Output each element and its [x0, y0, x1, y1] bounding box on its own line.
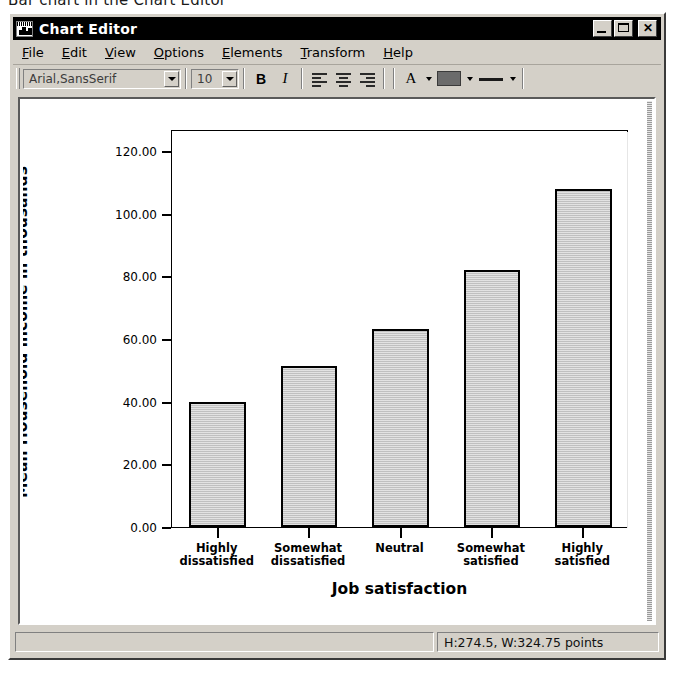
status-size-readout: H:274.5, W:324.75 points — [444, 635, 603, 650]
menu-item-options[interactable]: Options — [145, 43, 213, 62]
close-icon: ✕ — [639, 21, 656, 36]
y-axis-tick-mark — [162, 402, 171, 404]
align-right-icon — [360, 73, 375, 85]
line-style-button[interactable] — [475, 68, 507, 90]
close-button[interactable]: ✕ — [638, 20, 657, 37]
x-axis-tick-label: Somewhatsatisfied — [457, 542, 525, 568]
figure-caption: Bar chart in the Chart Editor — [8, 0, 226, 9]
minimize-icon — [597, 31, 606, 33]
menu-label-options: ptions — [164, 45, 204, 60]
status-size-pane: H:274.5, W:324.75 points — [437, 632, 659, 652]
menu-label-edit: dit — [70, 45, 87, 60]
menu-label-transform: ransform — [307, 45, 366, 60]
font-size-dropdown-arrow[interactable] — [222, 71, 237, 87]
chevron-down-icon — [168, 77, 176, 81]
canvas-right-gutter — [647, 101, 652, 621]
bar[interactable] — [372, 329, 429, 527]
x-axis-tick-label: Highlysatisfied — [555, 542, 610, 568]
align-left-icon — [312, 73, 327, 85]
chevron-down-icon — [226, 77, 234, 81]
menu-label-view: iew — [114, 45, 136, 60]
italic-button[interactable]: I — [273, 68, 297, 90]
chart-client-area[interactable]: Mean Household income in thousands 0.002… — [18, 97, 656, 625]
text-color-button[interactable]: A — [399, 68, 423, 90]
y-axis-tick-mark — [162, 527, 171, 529]
toolbar-separator — [393, 68, 395, 89]
text-color-icon: A — [406, 70, 417, 87]
toolbar-separator — [522, 68, 524, 89]
chevron-down-icon — [467, 77, 473, 81]
y-axis-tick-mark — [162, 276, 171, 278]
menu-item-view[interactable]: View — [96, 43, 145, 62]
bar[interactable] — [281, 366, 338, 527]
chevron-down-icon — [510, 77, 516, 81]
text-color-dropdown-arrow[interactable] — [423, 70, 434, 88]
font-size-combo[interactable]: 10 — [191, 69, 239, 89]
menu-item-transform[interactable]: Transform — [292, 43, 375, 62]
x-axis-label-line: satisfied — [457, 555, 525, 568]
font-size-value: 10 — [192, 72, 222, 86]
x-axis-tick-mark — [400, 528, 402, 538]
y-axis-tick: 20.00 — [23, 458, 171, 472]
menu-item-edit[interactable]: Edit — [53, 43, 96, 62]
minimize-button[interactable] — [593, 20, 612, 37]
maximize-button[interactable] — [614, 20, 633, 37]
x-axis-tick-mark — [308, 528, 310, 538]
menu-bar: File Edit View Options Elements Transfor… — [13, 41, 661, 65]
window-title: Chart Editor — [39, 21, 137, 37]
menu-item-help[interactable]: Help — [374, 43, 422, 62]
status-message-pane — [15, 632, 434, 652]
y-axis-tick: 120.00 — [23, 145, 171, 159]
title-bar: Chart Editor ✕ — [13, 17, 661, 40]
align-center-button[interactable] — [331, 68, 355, 90]
chart-canvas[interactable]: Mean Household income in thousands 0.002… — [23, 102, 649, 618]
menu-label-help: elp — [393, 45, 413, 60]
x-axis-tick-mark — [582, 528, 584, 538]
x-axis-label-line: Neutral — [375, 542, 423, 555]
x-axis-label-line: dissatisfied — [179, 555, 253, 568]
toolbar-separator — [185, 68, 187, 89]
bar[interactable] — [189, 402, 246, 527]
x-axis-label-line: dissatisfied — [271, 555, 345, 568]
fill-color-icon — [437, 71, 461, 86]
menu-item-file[interactable]: File — [13, 43, 53, 62]
fill-color-button[interactable] — [434, 68, 464, 90]
toolbar-grip[interactable] — [16, 68, 20, 89]
y-axis-tick: 100.00 — [23, 208, 171, 222]
bold-icon: B — [256, 71, 266, 87]
y-axis-tick: 0.00 — [23, 521, 171, 535]
align-center-icon — [336, 73, 351, 85]
x-axis-title: Job satisfaction — [171, 580, 628, 598]
line-style-icon — [478, 72, 504, 86]
toolbar-separator — [243, 68, 245, 89]
chevron-down-icon — [426, 77, 432, 81]
y-axis-tick-mark — [162, 339, 171, 341]
chart-window-icon — [16, 21, 33, 37]
menu-item-elements[interactable]: Elements — [213, 43, 292, 62]
toolbar-separator — [383, 68, 385, 89]
x-axis-tick-label: Neutral — [375, 542, 423, 555]
x-axis-tick-mark — [491, 528, 493, 538]
font-family-combo[interactable]: Arial,SansSerif — [23, 69, 181, 89]
y-axis-tick-mark — [162, 214, 171, 216]
x-axis-tick-mark — [217, 528, 219, 538]
formatting-toolbar: Arial,SansSerif 10 B I A — [13, 65, 661, 92]
fill-color-dropdown-arrow[interactable] — [464, 70, 475, 88]
x-axis-label-line: satisfied — [555, 555, 610, 568]
y-axis-tick: 40.00 — [23, 396, 171, 410]
status-bar: H:274.5, W:324.75 points — [15, 631, 659, 653]
italic-icon: I — [283, 70, 288, 87]
toolbar-separator — [301, 68, 303, 89]
align-left-button[interactable] — [307, 68, 331, 90]
bold-button[interactable]: B — [249, 68, 273, 90]
align-right-button[interactable] — [355, 68, 379, 90]
window-controls: ✕ — [593, 20, 661, 37]
line-style-dropdown-arrow[interactable] — [507, 70, 518, 88]
menu-label-elements: lements — [230, 45, 282, 60]
y-axis-tick: 80.00 — [23, 270, 171, 284]
y-axis-tick-mark — [162, 464, 171, 466]
x-axis-tick-label: Somewhatdissatisfied — [271, 542, 345, 568]
bar[interactable] — [464, 270, 521, 527]
font-family-dropdown-arrow[interactable] — [164, 71, 179, 87]
bar[interactable] — [555, 189, 612, 527]
